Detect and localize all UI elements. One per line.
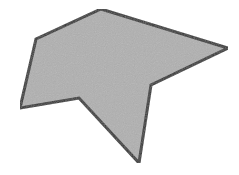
polygon-figure (0, 0, 239, 175)
concave-polygon-shape (20, 9, 228, 163)
diagram-canvas (0, 0, 239, 175)
